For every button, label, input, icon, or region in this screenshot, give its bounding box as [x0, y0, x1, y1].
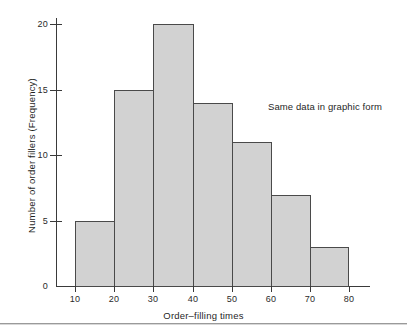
- y-tick-label-5: 5: [43, 217, 48, 226]
- x-tick-mark-10: [75, 286, 76, 292]
- x-tick-label-80: 80: [337, 295, 361, 304]
- histogram-bar-10-20: [75, 221, 115, 287]
- x-tick-mark-50: [232, 286, 233, 292]
- x-tick-mark-70: [310, 286, 311, 292]
- y-tick-mark-5: [50, 221, 62, 222]
- y-tick-mark-10: [50, 155, 62, 156]
- x-tick-mark-30: [153, 286, 154, 292]
- histogram-bar-60-70: [271, 195, 311, 287]
- x-axis-title: Order–filling times: [0, 310, 407, 321]
- plot-area: 20 15 10 5 0 10 20 30 40 50 60 70 80: [0, 0, 407, 333]
- chart-annotation: Same data in graphic form: [268, 101, 382, 112]
- x-tick-mark-60: [271, 286, 272, 292]
- x-tick-mark-40: [193, 286, 194, 292]
- histogram-bar-50-60: [232, 142, 272, 287]
- x-tick-label-20: 20: [102, 295, 126, 304]
- x-tick-label-50: 50: [220, 295, 244, 304]
- y-axis-title: Number of order fillers (Frequency): [26, 41, 37, 271]
- x-tick-mark-20: [114, 286, 115, 292]
- histogram-bar-20-30: [114, 90, 154, 287]
- histogram-figure: 20 15 10 5 0 10 20 30 40 50 60 70 80 Num…: [0, 0, 407, 333]
- histogram-bar-40-50: [193, 103, 233, 287]
- y-tick-label-15: 15: [38, 86, 48, 95]
- y-tick-mark-15: [50, 90, 62, 91]
- x-tick-mark-80: [349, 286, 350, 292]
- x-tick-label-70: 70: [298, 295, 322, 304]
- x-tick-label-30: 30: [141, 295, 165, 304]
- x-tick-label-60: 60: [259, 295, 283, 304]
- histogram-bar-70-80: [310, 247, 349, 287]
- y-axis-line: [56, 18, 57, 287]
- x-tick-label-40: 40: [181, 295, 205, 304]
- bottom-divider-shadow: [0, 324, 407, 325]
- y-tick-label-0: 0: [43, 282, 48, 291]
- y-tick-label-20: 20: [38, 20, 48, 29]
- histogram-bar-30-40: [153, 24, 194, 287]
- x-tick-label-10: 10: [63, 295, 87, 304]
- y-tick-label-10: 10: [38, 151, 48, 160]
- y-tick-mark-20: [50, 24, 62, 25]
